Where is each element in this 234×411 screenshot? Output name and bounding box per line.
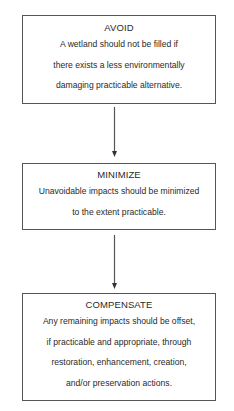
step-text-line: if practicable and appropriate, through [23,332,215,353]
step-box-avoid: AVOID A wetland should not be filled if … [22,15,216,104]
step-text-line: and/or preservation actions. [23,373,215,394]
step-text-line: to the extent practicable. [23,202,215,223]
step-text-line: damaging practicable alternative. [23,75,215,96]
step-text-line: Any remaining impacts should be offset, [23,311,215,332]
step-text-line: A wetland should not be filled if [23,34,215,55]
step-box-compensate: COMPENSATE Any remaining impacts should … [22,293,216,401]
step-title: COMPENSATE [23,299,215,311]
step-text-line: restoration, enhancement, creation, [23,352,215,373]
step-box-minimize: MINIMIZE Unavoidable impacts should be m… [22,163,216,230]
step-title: MINIMIZE [23,169,215,181]
arrow-down-icon [110,235,119,289]
arrow-down-icon [110,107,119,157]
step-text-line: Unavoidable impacts should be minimized [23,181,215,202]
step-title: AVOID [23,22,215,34]
step-text-line: there exists a less environmentally [23,55,215,76]
